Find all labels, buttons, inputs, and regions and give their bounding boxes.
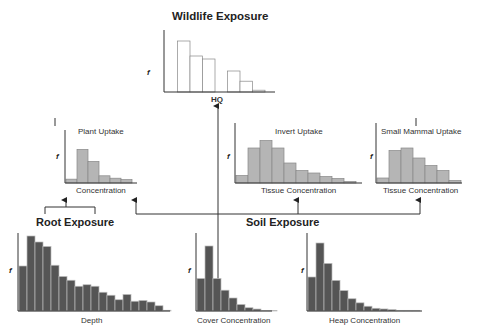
depth-xlabel: Depth — [81, 316, 102, 325]
histogram-bar — [99, 292, 107, 311]
histogram-bar — [178, 41, 191, 92]
plant-uptake-title: Plant Uptake — [78, 127, 124, 136]
heap-histogram — [307, 233, 422, 311]
histogram-bar — [221, 290, 229, 311]
histogram-bar — [59, 277, 67, 312]
histogram-bar — [377, 178, 389, 183]
histogram-bar — [356, 303, 364, 311]
histogram-bar — [121, 180, 132, 183]
histogram-bar — [51, 265, 59, 311]
plant-ylabel: f — [56, 152, 59, 161]
hq-histogram — [164, 30, 275, 92]
histogram-bar — [389, 151, 401, 184]
histogram-bar — [308, 173, 320, 183]
histogram-bar — [139, 301, 147, 312]
histogram-bar — [67, 280, 75, 311]
soil-exposure-title: Soil Exposure — [246, 216, 319, 228]
histogram-bar — [190, 56, 203, 92]
histogram-bar — [131, 301, 139, 311]
histogram-bar — [110, 178, 121, 183]
histogram-bar — [155, 306, 163, 311]
axis-line — [65, 130, 137, 183]
invert-ylabel: f — [227, 152, 230, 161]
heap-ylabel: f — [301, 266, 304, 275]
histogram-bar — [203, 59, 216, 92]
histogram-bar — [75, 286, 83, 311]
histogram-bar — [237, 305, 245, 312]
wildlife-exposure-title: Wildlife Exposure — [172, 10, 268, 22]
histogram-bar — [35, 242, 43, 311]
histogram-bar — [91, 286, 99, 311]
histogram-bar — [272, 148, 284, 183]
histogram-bar — [284, 163, 296, 183]
mammal-ylabel: f — [370, 152, 373, 161]
cover-ylabel: f — [188, 266, 191, 275]
histogram-bar — [401, 148, 413, 183]
invert-uptake-title: Invert Uptake — [275, 127, 323, 136]
histogram-bar — [27, 236, 35, 311]
histogram-bar — [260, 141, 272, 184]
histogram-bar — [123, 295, 131, 312]
invert-xlabel: Tissue Concentration — [261, 186, 336, 195]
histogram-bar — [66, 179, 77, 183]
mammal-uptake-title: Small Mammal Uptake — [381, 127, 461, 136]
plant-xlabel: Concentration — [76, 186, 126, 195]
cover-xlabel: Cover Concentration — [197, 316, 270, 325]
histogram-bar — [88, 161, 99, 183]
histogram-bar — [413, 158, 425, 183]
histogram-bar — [364, 306, 372, 311]
diagram-canvas — [0, 0, 478, 333]
histogram-bar — [228, 71, 241, 92]
histogram-bar — [308, 277, 316, 311]
histogram-bar — [229, 298, 237, 311]
histogram-bar — [236, 176, 248, 184]
histogram-bar — [324, 263, 332, 311]
histogram-bar — [437, 171, 449, 184]
histogram-bar — [43, 247, 51, 312]
cover-histogram — [196, 233, 277, 311]
histogram-bar — [340, 291, 348, 311]
histogram-bar — [107, 295, 115, 311]
histogram-bar — [320, 177, 332, 184]
histogram-bar — [240, 81, 253, 92]
root-exposure-title: Root Exposure — [36, 216, 114, 228]
histogram-bar — [296, 171, 308, 184]
mammal-xlabel: Tissue Concentration — [383, 186, 458, 195]
histogram-bar — [19, 266, 27, 311]
depth-ylabel: f — [9, 266, 12, 275]
histogram-bar — [205, 246, 213, 311]
histogram-bar — [115, 300, 123, 311]
heap-xlabel: Heap Concentration — [329, 316, 400, 325]
histogram-bar — [83, 285, 91, 311]
depth-histogram — [18, 233, 171, 311]
histogram-bar — [348, 299, 356, 311]
histogram-bar — [332, 280, 340, 311]
plant-histogram — [65, 130, 137, 183]
hq-ylabel: f — [147, 68, 150, 77]
histogram-bar — [99, 176, 110, 183]
histogram-bar — [197, 279, 205, 312]
histogram-bar — [248, 148, 260, 183]
histogram-bar — [77, 149, 88, 183]
histogram-bar — [316, 243, 324, 311]
histogram-bar — [147, 302, 155, 311]
histogram-bar — [425, 166, 437, 184]
histogram-bar — [332, 179, 344, 184]
hq-xlabel: HQ — [211, 95, 223, 104]
histogram-bar — [213, 279, 221, 312]
